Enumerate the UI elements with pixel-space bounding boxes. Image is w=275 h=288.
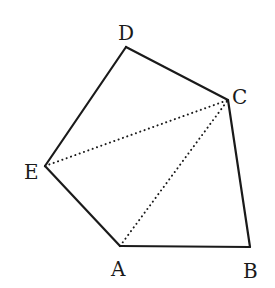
vertex-label-e: E (24, 160, 39, 184)
edge-EA (45, 166, 120, 246)
vertex-label-c: C (232, 85, 247, 109)
edge-AB (120, 246, 250, 247)
diagonal-EC (45, 100, 228, 166)
pentagon-diagram: ABCDE (0, 0, 275, 288)
vertex-labels: ABCDE (24, 21, 258, 283)
edge-BC (228, 100, 250, 247)
solid-edges (45, 47, 250, 247)
vertex-label-b: B (243, 259, 258, 283)
diagonal-AC (120, 100, 228, 246)
vertex-label-a: A (110, 257, 126, 281)
dotted-diagonals (45, 100, 228, 246)
edge-CD (126, 47, 228, 100)
edge-DE (45, 47, 126, 166)
vertex-label-d: D (118, 21, 134, 45)
